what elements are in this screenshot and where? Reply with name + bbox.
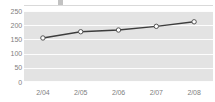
x-tick-label: 2/07 bbox=[141, 89, 171, 96]
x-tick-label: 2/05 bbox=[66, 89, 96, 96]
x-axis: 2/042/052/062/072/08 bbox=[0, 0, 215, 102]
line-chart-widget: 250200150100500 2/042/052/062/072/08 bbox=[0, 0, 215, 102]
x-tick-label: 2/04 bbox=[28, 89, 58, 96]
x-tick-label: 2/08 bbox=[179, 89, 209, 96]
x-tick-label: 2/06 bbox=[104, 89, 134, 96]
